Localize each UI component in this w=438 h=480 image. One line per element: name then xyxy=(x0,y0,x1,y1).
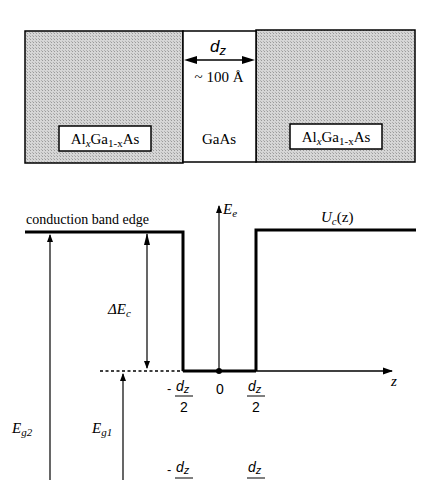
energy-axis-label: Ee xyxy=(222,201,237,219)
svg-text:2: 2 xyxy=(180,399,188,415)
svg-text:dz: dz xyxy=(176,459,190,476)
band-diagram: conduction band edge z Ee Uc(z) ΔEc Eg2 … xyxy=(11,201,416,480)
tick-pos-half-width: dz 2 xyxy=(247,378,265,415)
bottom-tick-pos: dz xyxy=(247,459,265,478)
quantum-well-diagram: dz ~ 100 Å GaAs AlxGa1-xAs AlxGa1-xAs co… xyxy=(0,0,438,480)
delta-ec-label: ΔEc xyxy=(107,301,131,319)
svg-text:2: 2 xyxy=(252,399,260,415)
svg-text:dz: dz xyxy=(176,378,190,395)
delta-ec-arrowhead-top xyxy=(144,233,150,245)
svg-text:dz: dz xyxy=(248,378,262,395)
tick-neg-half-width: - dz 2 xyxy=(167,378,193,415)
eg2-label: Eg2 xyxy=(11,420,33,438)
well-thickness-label: ~ 100 Å xyxy=(195,69,244,85)
tick-zero: 0 xyxy=(216,381,224,397)
potential-profile-left xyxy=(25,232,183,371)
potential-label: Uc(z) xyxy=(321,209,353,227)
z-axis-label: z xyxy=(390,373,397,389)
potential-profile-right xyxy=(256,230,416,371)
svg-text:-: - xyxy=(167,381,171,396)
well-material-label: GaAs xyxy=(202,131,236,147)
conduction-band-edge-label: conduction band edge xyxy=(26,212,149,227)
origin-dot xyxy=(216,368,222,374)
svg-text:dz: dz xyxy=(248,459,262,476)
heterostructure: dz ~ 100 Å GaAs AlxGa1-xAs AlxGa1-xAs xyxy=(25,30,415,163)
left-material-label: AlxGa1-xAs xyxy=(71,131,140,149)
bottom-tick-neg: - dz xyxy=(167,459,193,478)
eg1-label: Eg1 xyxy=(91,420,112,438)
svg-text:-: - xyxy=(167,462,171,477)
right-material-label: AlxGa1-xAs xyxy=(302,129,371,147)
